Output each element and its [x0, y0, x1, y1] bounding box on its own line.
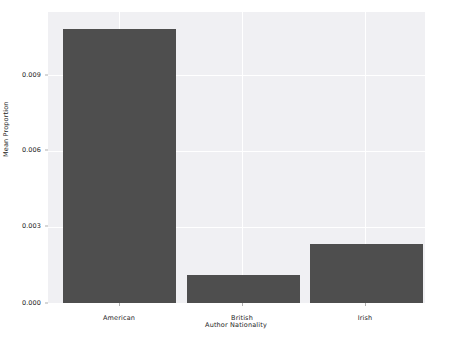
y-tick-label-0.009: 0.009 — [22, 71, 41, 79]
y-tick-mark-0.009 — [45, 75, 48, 76]
y-tick-label-0.006: 0.006 — [22, 146, 41, 154]
bar-british[interactable] — [187, 275, 300, 303]
bar-american[interactable] — [63, 29, 176, 303]
x-tick-mark-british — [242, 303, 243, 306]
x-tick-label-irish: Irish — [358, 314, 373, 322]
gridline-x-british — [242, 12, 243, 303]
y-tick-label-0.000: 0.000 — [22, 299, 41, 307]
y-axis: 0.000 0.003 0.006 0.009 — [0, 0, 48, 348]
x-axis-label: Author Nationality — [205, 321, 267, 329]
x-tick-mark-irish — [365, 303, 366, 306]
plot-area — [48, 12, 425, 303]
bar-irish[interactable] — [310, 244, 423, 303]
y-tick-label-0.003: 0.003 — [22, 222, 41, 230]
y-tick-mark-0.003 — [45, 226, 48, 227]
chart-figure: 0.000 0.003 0.006 0.009 Mean Proportion … — [0, 0, 460, 348]
x-tick-mark-american — [119, 303, 120, 306]
y-axis-label: Mean Proportion — [2, 101, 10, 157]
x-tick-label-american: American — [103, 314, 135, 322]
y-tick-mark-0.006 — [45, 150, 48, 151]
